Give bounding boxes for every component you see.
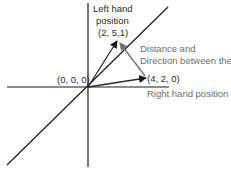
difference-label-line1: Distance and bbox=[140, 43, 195, 54]
right-hand-coords: (4, 2, 0) bbox=[147, 73, 180, 84]
origin-label: (0, 0, 0) bbox=[57, 74, 90, 85]
right-hand-vector bbox=[88, 78, 146, 87]
difference-label-line2: Direction between them bbox=[140, 55, 231, 66]
left-hand-title-line2: position bbox=[96, 15, 129, 26]
left-hand-title-line1: Left hand bbox=[93, 3, 133, 14]
left-hand-coords: (2, 5,1) bbox=[98, 27, 128, 38]
right-hand-title: Right hand position bbox=[147, 88, 228, 99]
left-hand-vector bbox=[88, 41, 117, 87]
